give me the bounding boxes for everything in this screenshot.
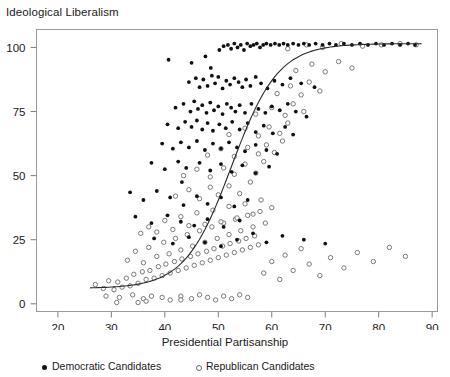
data-point [371,259,375,263]
data-point [179,248,183,252]
data-point [245,42,249,46]
legend-label-republican: Republican Candidates [206,360,315,372]
data-point [217,48,221,52]
data-point [167,58,171,62]
data-point [265,42,269,46]
data-point [240,85,244,89]
data-point [200,261,204,265]
data-point [184,166,188,170]
data-point [258,209,262,213]
data-point [217,122,221,126]
data-point [197,229,201,233]
data-point [277,43,281,47]
data-point [205,295,209,299]
data-point [195,167,199,171]
data-point [286,102,290,106]
data-point [132,272,136,276]
data-point [160,295,164,299]
data-point [144,277,148,281]
data-point [221,112,225,116]
fitted-curve [90,44,421,288]
data-point [187,146,191,150]
data-point [314,42,318,46]
data-point [227,204,231,208]
data-point [117,295,121,299]
x-axis-tick-label: 80 [372,322,385,331]
data-point [164,262,168,266]
data-point [219,162,223,166]
data-point [239,43,243,47]
data-point [200,103,204,107]
data-point [222,44,226,48]
data-point [263,221,267,225]
data-point [283,253,287,257]
data-point [171,227,175,231]
data-point [180,180,184,184]
data-point [208,258,212,262]
data-point [206,202,210,206]
data-point [206,84,210,88]
data-point [291,102,295,106]
data-point [251,225,255,229]
data-point [196,107,200,111]
data-point [240,163,244,167]
data-point [270,105,274,109]
data-point [234,110,238,114]
data-point [310,62,314,66]
data-point [302,42,306,46]
legend-label-democratic: Democratic Candidates [52,360,161,372]
data-point [242,48,246,52]
data-point [254,143,258,147]
data-point [203,148,207,152]
data-point [184,266,188,270]
data-point [262,124,266,128]
data-point [155,254,159,258]
data-point [224,126,228,130]
data-point [256,107,260,111]
data-point [210,225,214,229]
data-point [248,245,252,249]
data-point [171,147,175,151]
data-point [294,68,298,72]
data-point [235,238,239,242]
data-point [224,253,228,257]
data-point [291,268,295,272]
data-point [172,259,176,263]
data-point [197,293,201,297]
data-point [232,42,236,46]
data-point [115,300,119,304]
data-point [141,261,145,265]
data-point [187,223,191,227]
data-point [245,213,249,217]
data-point [265,240,269,244]
x-axis-tick-label: 70 [319,322,332,331]
data-point [263,111,267,115]
data-point [246,198,250,202]
data-point [278,131,282,135]
data-point [245,295,249,299]
data-point [134,215,138,219]
data-point [139,231,143,235]
data-point [203,240,207,244]
data-point [148,268,152,272]
data-point [201,78,205,82]
data-point [219,244,223,248]
x-axis-tick-label: 60 [265,322,278,331]
y-axis-tick-label: 0 [19,298,25,310]
data-point [299,93,303,97]
data-point [124,276,128,280]
data-point [190,125,194,129]
data-point [195,194,199,198]
data-point [200,128,204,132]
data-point [262,159,266,163]
data-point [205,111,209,115]
data-point [267,125,271,129]
data-point [229,296,233,300]
data-point [208,101,212,105]
data-point [243,111,247,115]
data-point [228,83,232,87]
data-point [318,273,322,277]
data-point [206,121,210,125]
data-point [355,250,359,254]
data-point [256,134,260,138]
